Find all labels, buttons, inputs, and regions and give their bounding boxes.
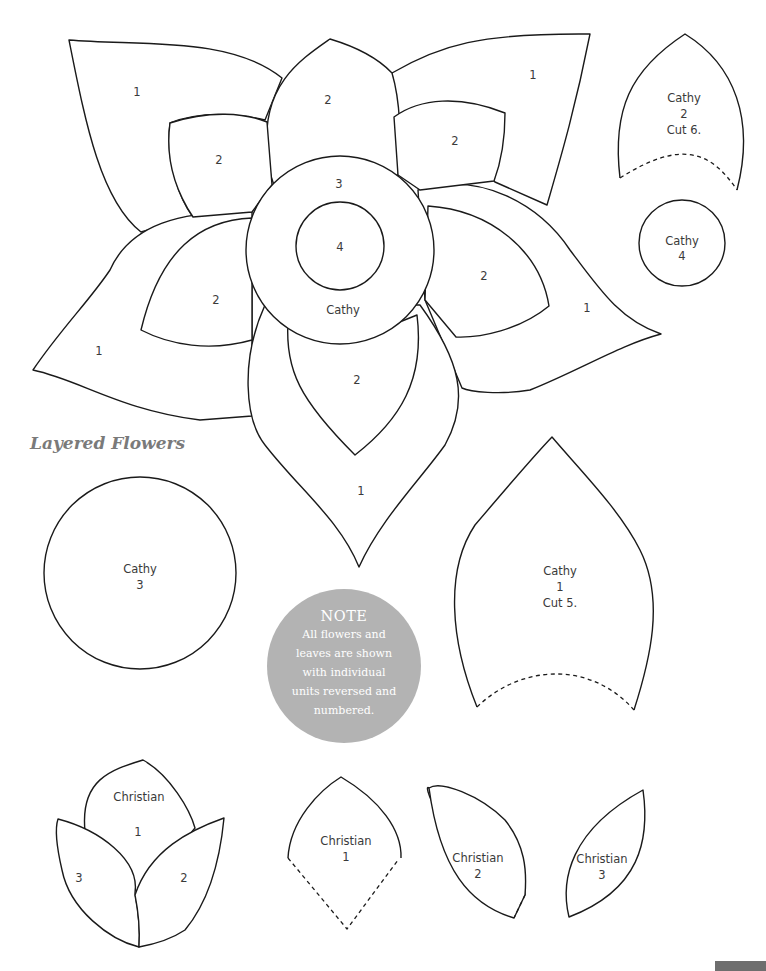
note-heading: NOTE [267,608,421,624]
note-line: numbered. [267,701,421,720]
svg-text:1: 1 [556,580,563,594]
svg-text:Cut 6.: Cut 6. [667,123,701,137]
template-cathy-2: Cathy 2 Cut 6. [618,34,743,190]
svg-text:Christian: Christian [576,852,627,866]
svg-text:Cathy: Cathy [543,564,577,578]
svg-text:4: 4 [678,249,685,263]
label-outer-b: 1 [357,484,364,498]
label-flower-name: Cathy [326,303,360,317]
svg-text:3: 3 [75,871,82,885]
svg-text:Cathy: Cathy [123,562,157,576]
svg-text:2: 2 [474,867,481,881]
template-cathy-1: Cathy 1 Cut 5. [455,437,654,710]
label-outer-tl: 1 [133,85,140,99]
note-line: units reversed and [267,682,421,701]
svg-text:Cathy: Cathy [667,91,701,105]
note-line: leaves are shown [267,644,421,663]
svg-text:2: 2 [680,107,687,121]
template-cathy-4: Cathy 4 [639,200,725,286]
note-line: with individual [267,663,421,682]
svg-text:3: 3 [598,868,605,882]
label-outer-l: 1 [95,344,102,358]
note-line: All flowers and [267,625,421,644]
svg-text:Christian: Christian [320,834,371,848]
label-inner-top: 2 [324,93,331,107]
christian-flower: Christian 1 2 3 [57,760,224,947]
label-center: 4 [336,240,343,254]
inner-petal-upper-right [394,101,505,190]
svg-text:Christian: Christian [452,851,503,865]
svg-text:Cathy: Cathy [665,234,699,248]
label-ring: 3 [335,177,342,191]
pattern-artwork: 1 1 1 1 1 2 2 2 2 2 2 3 4 Cathy Cathy 2 … [0,0,766,971]
label-inner-ul: 2 [215,153,222,167]
svg-text:Christian: Christian [113,790,164,804]
svg-text:2: 2 [180,871,187,885]
template-christian-1: Christian 1 [288,777,401,929]
label-inner-r: 2 [480,269,487,283]
svg-text:3: 3 [136,578,143,592]
template-christian-2: Christian 2 [427,786,525,918]
template-christian-3: Christian 3 [566,790,645,917]
label-inner-ur: 2 [451,134,458,148]
page-title: Layered Flowers [30,433,185,453]
page-edge-tab [715,961,766,971]
label-inner-l: 2 [212,293,219,307]
label-outer-r: 1 [583,301,590,315]
svg-text:Cut 5.: Cut 5. [543,596,577,610]
svg-text:1: 1 [342,850,349,864]
label-inner-b: 2 [353,373,360,387]
svg-text:1: 1 [134,825,141,839]
label-outer-tr: 1 [529,68,536,82]
note-badge: NOTE All flowers and leaves are shown wi… [267,589,421,743]
template-cathy-3: Cathy 3 [44,477,236,669]
